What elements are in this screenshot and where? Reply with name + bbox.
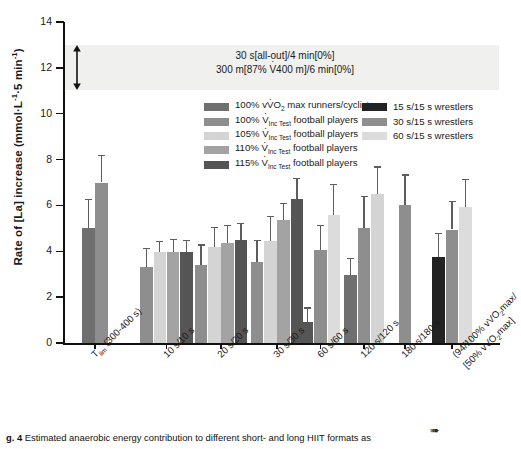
error-bar bbox=[186, 240, 187, 253]
error-bar-cap bbox=[330, 184, 337, 185]
error-bar bbox=[173, 239, 174, 253]
error-bar-cap bbox=[224, 225, 231, 226]
error-bar bbox=[227, 225, 228, 243]
error-bar-cap bbox=[143, 248, 150, 249]
bar bbox=[371, 194, 384, 343]
bar bbox=[82, 228, 95, 343]
error-bar-cap bbox=[98, 155, 105, 156]
error-bar-cap bbox=[211, 227, 218, 228]
bar bbox=[328, 215, 341, 343]
bar bbox=[251, 262, 264, 343]
error-bar-cap bbox=[237, 223, 244, 224]
error-bar-cap bbox=[304, 307, 311, 308]
bar bbox=[358, 228, 371, 343]
error-bar-cap bbox=[156, 241, 163, 242]
error-bar-cap bbox=[402, 174, 409, 175]
error-bar-cap bbox=[374, 166, 381, 167]
error-bar-cap bbox=[449, 201, 456, 202]
error-bar bbox=[438, 233, 439, 257]
error-bar-cap bbox=[435, 233, 442, 234]
error-bar bbox=[404, 174, 405, 205]
bar bbox=[95, 183, 108, 344]
bar bbox=[459, 207, 472, 343]
error-bar-cap bbox=[462, 179, 469, 180]
error-bar-cap bbox=[183, 240, 190, 241]
bar bbox=[264, 241, 277, 343]
error-bar bbox=[88, 199, 89, 229]
bar bbox=[446, 230, 459, 343]
error-bar-cap bbox=[293, 178, 300, 179]
bar bbox=[221, 243, 234, 343]
error-bar-cap bbox=[317, 225, 324, 226]
bar bbox=[399, 205, 412, 343]
error-bar bbox=[363, 196, 364, 228]
caption-number: g. 4 bbox=[6, 432, 22, 443]
error-bar bbox=[240, 223, 241, 240]
error-bar bbox=[320, 225, 321, 250]
bar bbox=[314, 250, 327, 343]
error-bar-cap bbox=[267, 216, 274, 217]
error-bar bbox=[377, 166, 378, 194]
error-bar-cap bbox=[85, 199, 92, 200]
bar bbox=[277, 220, 290, 343]
error-bar-cap bbox=[198, 244, 205, 245]
bar bbox=[208, 247, 221, 343]
error-bar bbox=[307, 307, 308, 322]
error-bar bbox=[270, 216, 271, 241]
error-bar bbox=[159, 241, 160, 252]
error-bar bbox=[146, 248, 147, 267]
error-bar bbox=[200, 244, 201, 265]
bar bbox=[195, 265, 208, 343]
error-bar-cap bbox=[280, 203, 287, 204]
error-bar-cap bbox=[347, 258, 354, 259]
error-bar-cap bbox=[361, 196, 368, 197]
bar bbox=[167, 252, 180, 343]
bar bbox=[140, 267, 153, 343]
error-bar-cap bbox=[254, 240, 261, 241]
error-bar bbox=[256, 240, 257, 262]
error-bar bbox=[296, 178, 297, 199]
error-bar-cap bbox=[170, 239, 177, 240]
error-bar bbox=[333, 184, 334, 215]
error-bar bbox=[101, 155, 102, 183]
error-bar bbox=[350, 258, 351, 275]
error-bar bbox=[214, 227, 215, 246]
bar bbox=[154, 252, 167, 343]
bar bbox=[291, 199, 304, 343]
error-bar bbox=[283, 203, 284, 220]
caption-text: Estimated anaerobic energy contribution … bbox=[25, 432, 371, 443]
error-bar bbox=[451, 201, 452, 230]
mouse-cursor-icon: ➠ bbox=[430, 424, 439, 437]
error-bar bbox=[465, 179, 466, 207]
bars-layer bbox=[0, 0, 507, 344]
